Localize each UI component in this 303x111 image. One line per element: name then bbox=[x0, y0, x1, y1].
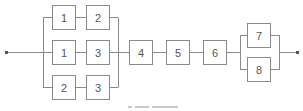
output-terminal bbox=[296, 51, 299, 54]
block-4: 4 bbox=[129, 40, 153, 65]
block-5: 5 bbox=[166, 40, 190, 65]
block-7: 7 bbox=[247, 23, 271, 48]
block-r1c2: 2 bbox=[86, 5, 110, 30]
input-terminal bbox=[5, 51, 8, 54]
block-r3c1: 2 bbox=[52, 75, 76, 100]
block-6: 6 bbox=[203, 40, 227, 65]
block-8: 8 bbox=[247, 57, 271, 82]
caption-cutoff bbox=[128, 106, 186, 111]
block-r3c2: 3 bbox=[86, 75, 110, 100]
block-r1c1: 1 bbox=[52, 5, 76, 30]
block-r2c2: 3 bbox=[86, 40, 110, 65]
block-r2c1: 1 bbox=[52, 40, 76, 65]
